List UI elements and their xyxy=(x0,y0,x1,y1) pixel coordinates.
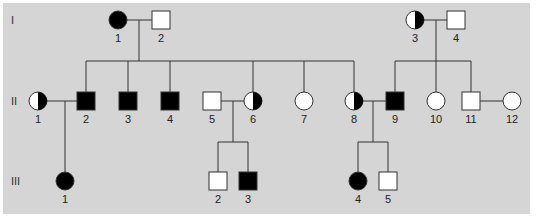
individual-ii-4-male-affected-icon xyxy=(161,92,179,110)
individual-label: 2 xyxy=(83,113,89,125)
individual-i-2-male-unaffected-icon xyxy=(152,11,170,29)
individual-i-1-female-affected-icon xyxy=(109,11,127,29)
individual-label: 4 xyxy=(355,193,361,205)
individual-label: 1 xyxy=(115,32,121,44)
individual-label: 3 xyxy=(125,113,131,125)
individual-ii-2-male-affected-icon xyxy=(77,92,95,110)
individual-ii-1-female-carrier-icon xyxy=(29,92,47,110)
individual-label: 3 xyxy=(412,32,418,44)
individual-iii-2-male-unaffected-icon xyxy=(209,172,227,190)
individual-label: 11 xyxy=(465,113,476,125)
individual-label: 10 xyxy=(430,113,442,125)
individual-ii-9-male-affected-icon xyxy=(386,92,404,110)
individual-label: 2 xyxy=(215,193,221,205)
individual-label: 5 xyxy=(209,113,215,125)
individual-ii-7-female-unaffected-icon xyxy=(295,92,313,110)
individual-label: 1 xyxy=(62,193,68,205)
individual-iii-4-female-affected-icon xyxy=(349,172,367,190)
generation-label: II xyxy=(11,95,17,107)
individual-ii-12-female-unaffected-icon xyxy=(503,92,521,110)
individual-iii-3-male-affected-icon xyxy=(239,172,257,190)
individual-iii-1-female-affected-icon xyxy=(56,172,74,190)
generation-label: III xyxy=(11,175,20,187)
individual-label: 1 xyxy=(35,113,41,125)
individual-label: 12 xyxy=(506,113,518,125)
generation-label: I xyxy=(11,14,14,26)
individual-iii-5-male-unaffected-icon xyxy=(379,172,397,190)
individual-ii-5-male-unaffected-icon xyxy=(203,92,221,110)
individual-i-4-male-unaffected-icon xyxy=(447,11,465,29)
individual-label: 5 xyxy=(385,193,391,205)
individual-label: 4 xyxy=(453,32,459,44)
individual-ii-6-female-carrier-icon xyxy=(244,92,262,110)
individual-label: 7 xyxy=(301,113,307,125)
individual-ii-8-female-carrier-icon xyxy=(345,92,363,110)
individual-label: 3 xyxy=(245,193,251,205)
individual-i-3-female-carrier-icon xyxy=(406,11,424,29)
individual-label: 2 xyxy=(158,32,164,44)
individual-label: 4 xyxy=(167,113,173,125)
individual-label: 9 xyxy=(392,113,398,125)
individual-label: 8 xyxy=(351,113,357,125)
individual-ii-3-male-affected-icon xyxy=(119,92,137,110)
individual-label: 6 xyxy=(250,113,256,125)
individual-ii-11-male-unaffected-icon xyxy=(462,92,480,110)
individual-ii-10-female-unaffected-icon xyxy=(427,92,445,110)
